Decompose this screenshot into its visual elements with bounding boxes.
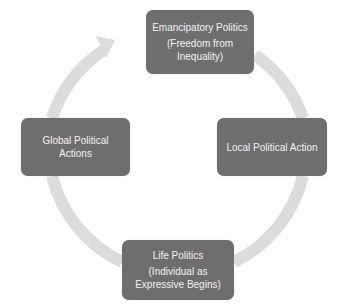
- node-subtitle: (Freedom from Inequality): [150, 37, 250, 63]
- node-emancipatory-politics: Emancipatory Politics (Freedom from Ineq…: [146, 10, 254, 74]
- node-title: Emancipatory Politics: [152, 21, 248, 34]
- arc-left-to-top: [52, 50, 104, 118]
- arc-bottom-to-left: [52, 176, 122, 262]
- node-title: Local Political Action: [226, 141, 317, 154]
- node-title: Life Politics: [153, 249, 204, 262]
- node-life-politics: Life Politics (Individual as Expressive …: [122, 240, 234, 300]
- node-local-political-action: Local Political Action: [217, 118, 327, 176]
- arc-right-to-bottom: [234, 176, 303, 262]
- arc-top-to-right: [255, 55, 303, 118]
- node-subtitle: (Individual as Expressive Begins): [126, 265, 230, 291]
- node-global-political-actions: Global Political Actions: [21, 118, 130, 176]
- node-title: Global Political Actions: [25, 134, 126, 160]
